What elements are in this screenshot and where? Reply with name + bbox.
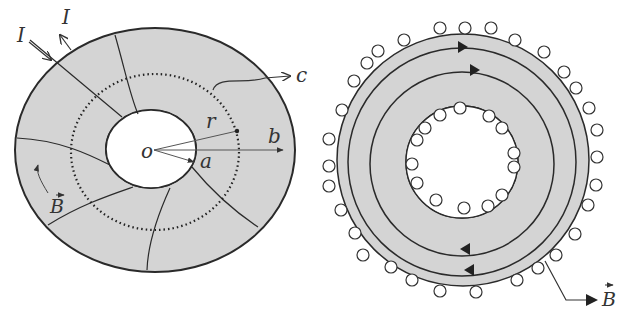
label-o: o [141, 139, 153, 163]
label-I-out: I [61, 5, 71, 29]
current-in-arrow [29, 42, 51, 60]
current-out-arrow [60, 35, 71, 50]
label-I-in: I [16, 23, 26, 47]
b-pointer [545, 261, 590, 300]
label-a: a [200, 149, 212, 173]
label-B-right: B [601, 288, 616, 310]
label-B: B [49, 195, 64, 217]
label-r: r [206, 109, 217, 133]
diagram-canvas: I I c r b a o B [0, 0, 625, 313]
label-b: b [268, 124, 281, 148]
toroid-right: B [323, 22, 616, 310]
toroid-left: I I c r b a o B [15, 5, 307, 272]
label-c: c [296, 63, 307, 87]
